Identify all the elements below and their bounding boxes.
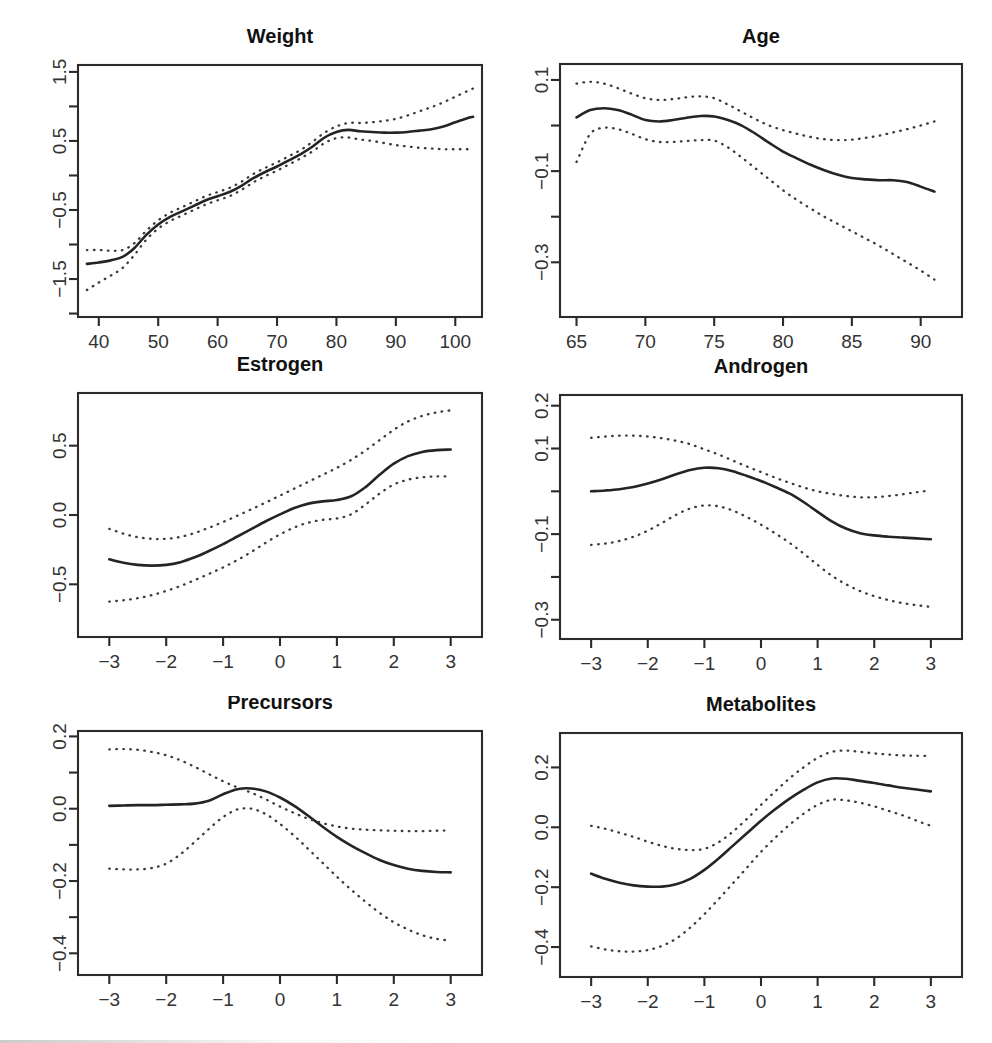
x-tick-label: 80 — [772, 331, 793, 348]
x-tick-label: −2 — [637, 653, 659, 674]
plot-box — [560, 64, 962, 317]
figure-panel-grid: Weight1.50.5−0.5−1.5405060708090100Age0.… — [0, 0, 992, 1043]
y-tick-label: 0.2 — [49, 723, 70, 749]
x-tick-label: 70 — [266, 331, 287, 348]
series-lower_ci — [577, 128, 935, 280]
x-tick-label: −2 — [637, 991, 659, 1012]
x-tick-label: 3 — [926, 991, 937, 1012]
y-tick-label: 0.0 — [49, 502, 70, 528]
panel-precursors: Precursors0.20.0−0.2−0.4−3−2−10123 — [0, 696, 496, 1043]
plot-box — [560, 733, 962, 977]
x-tick-label: −2 — [155, 651, 177, 672]
x-tick-label: 90 — [910, 331, 931, 348]
panel-weight: Weight1.50.5−0.5−1.5405060708090100 — [0, 0, 496, 348]
x-tick-label: 60 — [207, 331, 228, 348]
panel-title: Precursors — [227, 696, 333, 713]
x-tick-label: 75 — [704, 331, 725, 348]
y-tick-label: 0.1 — [531, 435, 552, 461]
x-tick-label: −3 — [580, 991, 602, 1012]
series-lower_ci — [87, 137, 473, 290]
y-tick-label: −0.4 — [531, 928, 552, 966]
series-upper_ci — [109, 749, 450, 831]
y-tick-label: 0.5 — [49, 128, 70, 154]
y-tick-label: 0.5 — [49, 432, 70, 458]
plot-box — [560, 395, 962, 639]
series-upper_ci — [591, 751, 931, 850]
y-tick-label: −0.1 — [531, 152, 552, 190]
series-fit — [591, 468, 931, 540]
series-upper_ci — [591, 436, 931, 498]
x-tick-label: 1 — [812, 653, 823, 674]
x-tick-label: −2 — [155, 989, 177, 1010]
x-tick-label: −1 — [694, 991, 716, 1012]
y-tick-label: −0.3 — [531, 244, 552, 282]
x-tick-label: 1 — [332, 651, 343, 672]
x-tick-label: 50 — [148, 331, 169, 348]
y-tick-label: −0.1 — [531, 515, 552, 553]
plot-box — [78, 731, 482, 975]
x-tick-label: 2 — [389, 651, 400, 672]
x-tick-label: 70 — [635, 331, 656, 348]
series-lower_ci — [591, 505, 931, 607]
y-tick-label: 0.0 — [49, 796, 70, 822]
panel-title: Weight — [247, 25, 314, 47]
x-tick-label: 3 — [926, 653, 937, 674]
y-tick-label: −0.3 — [531, 601, 552, 639]
x-tick-label: −1 — [694, 653, 716, 674]
x-tick-label: 85 — [841, 331, 862, 348]
panel-title: Estrogen — [237, 353, 324, 375]
x-tick-label: −1 — [212, 989, 234, 1010]
x-tick-label: −3 — [98, 989, 120, 1010]
x-tick-label: 90 — [385, 331, 406, 348]
series-fit — [109, 788, 450, 872]
x-tick-label: 3 — [445, 651, 456, 672]
x-tick-label: 65 — [566, 331, 587, 348]
x-tick-label: 1 — [812, 991, 823, 1012]
y-tick-label: 0.1 — [531, 67, 552, 93]
y-tick-label: −0.4 — [49, 934, 70, 972]
x-tick-label: 40 — [88, 331, 109, 348]
panel-age: Age0.1−0.1−0.3657075808590 — [496, 0, 992, 348]
plot-box — [78, 65, 482, 317]
series-upper_ci — [577, 82, 935, 140]
series-fit — [591, 778, 931, 887]
x-tick-label: 0 — [275, 989, 286, 1010]
series-upper_ci — [109, 410, 450, 539]
x-tick-label: −3 — [580, 653, 602, 674]
series-fit — [109, 450, 450, 566]
panel-title: Age — [742, 25, 780, 47]
panel-androgen: Androgen0.20.1−0.1−0.3−3−2−10123 — [496, 348, 992, 696]
x-tick-label: 2 — [869, 991, 880, 1012]
y-tick-label: −0.5 — [49, 566, 70, 604]
panel-title: Androgen — [714, 355, 808, 377]
x-tick-label: 0 — [756, 653, 767, 674]
x-tick-label: −3 — [98, 651, 120, 672]
y-tick-label: 0.0 — [531, 814, 552, 840]
x-tick-label: 0 — [275, 651, 286, 672]
panel-estrogen: Estrogen0.50.0−0.5−3−2−10123 — [0, 348, 496, 696]
series-lower_ci — [109, 476, 450, 601]
x-tick-label: 1 — [332, 989, 343, 1010]
panel-title: Metabolites — [706, 696, 816, 715]
x-tick-label: 2 — [869, 653, 880, 674]
panel-metabolites: Metabolites0.20.0−0.2−0.4−3−2−10123 — [496, 696, 992, 1043]
x-tick-label: 3 — [445, 989, 456, 1010]
y-tick-label: −0.2 — [49, 862, 70, 900]
y-tick-label: −1.5 — [49, 260, 70, 298]
y-tick-label: −0.5 — [49, 191, 70, 229]
y-tick-label: −0.2 — [531, 868, 552, 906]
y-tick-label: 1.5 — [49, 59, 70, 85]
x-tick-label: 0 — [756, 991, 767, 1012]
series-fit — [577, 108, 935, 191]
x-tick-label: 80 — [326, 331, 347, 348]
x-tick-label: 2 — [389, 989, 400, 1010]
x-tick-label: −1 — [212, 651, 234, 672]
y-tick-label: 0.2 — [531, 392, 552, 418]
x-tick-label: 100 — [439, 331, 471, 348]
series-lower_ci — [109, 808, 450, 940]
y-tick-label: 0.2 — [531, 754, 552, 780]
